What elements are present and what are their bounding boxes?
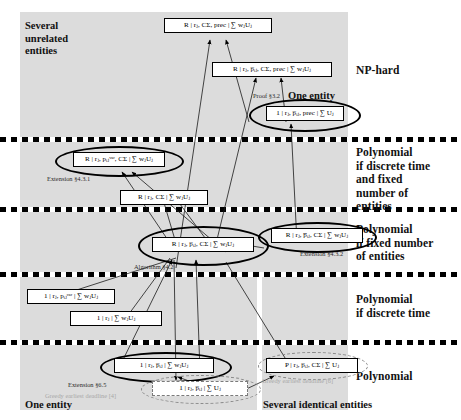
band-line-1: Polynomial xyxy=(356,293,430,307)
band-separator-3 xyxy=(0,272,461,277)
note-greedy-4: Greedy earliest deadline [4] xyxy=(45,392,116,400)
node-R-rj-Csigma-prec-wU[interactable]: R | rⱼ, CΣ, prec | ∑ wⱼUⱼ xyxy=(164,18,272,33)
band-label-np-hard: NP-hard xyxy=(356,64,400,78)
panel-band4-left xyxy=(20,277,257,340)
complexity-hierarchy-figure: R | rⱼ, CΣ, prec | ∑ wⱼUⱼ R | rⱼ, p̅ᵢⱼ, … xyxy=(0,0,461,420)
band-line-5: entities xyxy=(356,200,430,214)
label-several-unrelated-entities: Several unrelated entities xyxy=(25,20,68,58)
band-line-3: and fixed xyxy=(356,173,430,187)
band-label-poly: Polynomial xyxy=(356,370,413,384)
label-line-3: entities xyxy=(25,45,68,58)
node-1-rj-wU[interactable]: 1 | rⱼ | ∑ wⱼUⱼ xyxy=(70,311,162,326)
node-R-rj-pij-Csigma-prec-wU[interactable]: R | rⱼ, p̅ᵢⱼ, CΣ, prec | ∑ wⱼUⱼ xyxy=(212,62,332,77)
label-one-entity-top: One entity xyxy=(288,90,335,103)
band-separator-4 xyxy=(0,340,461,345)
node-1-rj-pbar-U[interactable]: 1 | rⱼ, p̅ᵢⱼ | ∑ Uⱼ xyxy=(152,381,248,396)
band-label-poly-discrete: Polynomial if discrete time xyxy=(356,293,430,320)
band-line-1: Polynomial xyxy=(356,146,430,160)
node-R-rj-pbb-Csigma-wU[interactable]: R | rⱼ, p̅̅ᵢⱼ, CΣ | ∑ wⱼUⱼ xyxy=(271,228,363,243)
band-line-2: if discrete time xyxy=(356,307,430,321)
note-proof-32: Proof §3.2 xyxy=(253,92,280,100)
band-line-3: of entities xyxy=(356,250,434,264)
node-R-rj-pbar-Csigma-wU[interactable]: R | rⱼ, p̅ᵢⱼ, CΣ | ∑ wⱼUⱼ xyxy=(152,237,254,252)
band-line-4: number of xyxy=(356,187,430,201)
note-greedy-6: Greedy earliest deadline [6] xyxy=(262,377,333,385)
label-one-entity-bottom: One entity xyxy=(25,399,72,412)
node-P-rj-pbar-Csigma-U[interactable]: P | rⱼ, p̅ᵢⱼ, CΣ | ∑ Uⱼ xyxy=(266,358,358,373)
band-line-2: if discrete time xyxy=(356,160,430,174)
node-R-rj-Csigma-wU[interactable]: R | rⱼ, CΣ | ∑ wⱼUⱼ xyxy=(120,190,208,205)
label-line-2: unrelated xyxy=(25,33,68,46)
band-line-1: Polynomial xyxy=(356,223,434,237)
note-algorithm-42: Algorithm §4.2 xyxy=(134,263,173,271)
band-label-poly-fixed: Polynomial if fixed number of entities xyxy=(356,223,434,264)
label-line-1: Several xyxy=(25,20,68,33)
band-label-poly-discrete-fixed: Polynomial if discrete time and fixed nu… xyxy=(356,146,430,214)
panel-band4-right xyxy=(262,277,348,340)
band-separator-1 xyxy=(0,137,461,142)
node-1-rj-pbar-wU[interactable]: 1 | rⱼ, p̅ᵢⱼ | ∑ wⱼUⱼ xyxy=(114,358,214,373)
label-several-identical-entities: Several identical entities xyxy=(263,399,372,412)
node-R-rj-pvar-Csigma-wU[interactable]: R | rⱼ, pᵢⱼᵛᵃʳ, CΣ | ∑ wⱼUⱼ xyxy=(73,152,165,167)
node-1-rj-pij-prec-U[interactable]: 1 | rⱼ, p̅ᵢⱼ, prec | ∑ Uⱼ xyxy=(266,106,344,121)
band-line-2: if fixed number xyxy=(356,237,434,251)
note-extension-431: Extension §4.3.1 xyxy=(47,175,90,183)
note-extension-432: Extension §4.3.2 xyxy=(300,250,343,258)
note-extension-65: Extension §6.5 xyxy=(68,381,106,389)
node-1-rj-pvar-wU[interactable]: 1 | rⱼ, pᵢⱼᵛᵃʳ | ∑ wⱼUⱼ xyxy=(27,289,115,304)
